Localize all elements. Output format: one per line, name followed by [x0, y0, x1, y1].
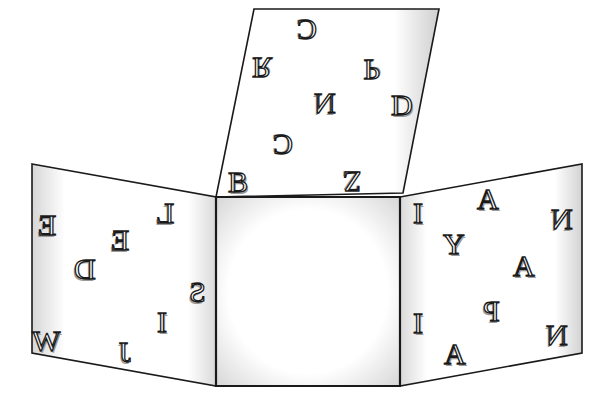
right-face-letter: I: [413, 198, 423, 228]
top-face-letter: C: [273, 130, 293, 160]
center-face: [216, 197, 400, 386]
left-face-letter: W: [32, 326, 60, 356]
top-face-letter: N: [314, 88, 336, 118]
right-face-letter: N: [551, 204, 573, 234]
right-face-letter: P: [483, 296, 500, 326]
right-face-letter: I: [413, 308, 423, 338]
left-face-letter: J: [119, 337, 131, 367]
right-face-letter: A: [444, 339, 466, 369]
left-face-letter: D: [74, 254, 96, 284]
left-face-letter: S: [189, 277, 206, 307]
right-face-letter: Y: [443, 229, 465, 259]
right-face-letter: N: [546, 320, 568, 350]
left-face-letter: I: [157, 307, 167, 337]
top-face-letter: D: [391, 90, 413, 120]
cube-net-faces: [0, 0, 612, 396]
top-face-letter: R: [252, 53, 272, 83]
left-face-letter: E: [38, 210, 56, 240]
right-face-letter: A: [513, 251, 535, 281]
left-face-letter: E: [111, 225, 129, 255]
top-face-letter: B: [228, 167, 248, 197]
cube-net-diagram: CRPNDCBZ LEEDSIWJ IANYAPINA: [0, 0, 612, 396]
top-face-letter: P: [364, 55, 381, 85]
top-face-letter: Z: [343, 167, 361, 197]
right-face-letter: A: [477, 184, 499, 214]
top-face-letter: C: [297, 15, 317, 45]
left-face-letter: L: [156, 198, 174, 228]
